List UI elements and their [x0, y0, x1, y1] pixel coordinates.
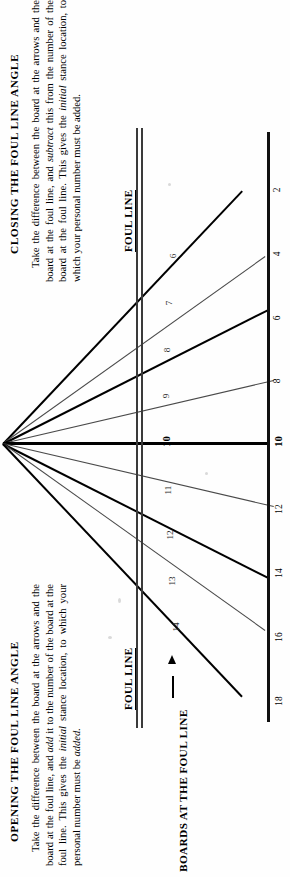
opening-body-emph-added: added. — [71, 728, 82, 757]
opening-body-emph-add: add — [44, 737, 55, 753]
boards-caption-leader — [172, 676, 174, 698]
board-axis-tick-12: 12 — [274, 504, 284, 513]
arrow-board-label-9: 9 — [161, 394, 171, 399]
board-axis-tick-18: 18 — [274, 696, 284, 705]
scan-speck — [108, 636, 112, 639]
board-axis-tick-8: 8 — [272, 379, 282, 384]
section-opening: OPENING THE FOUL LINE ANGLE Take the dif… — [8, 584, 128, 868]
opening-section-title: OPENING THE FOUL LINE ANGLE — [8, 641, 20, 842]
arrow-right-icon — [168, 655, 176, 664]
closing-body-emph-subtract: subtract — [44, 127, 55, 162]
board-axis-tick-2: 2 — [272, 188, 282, 193]
scan-speck — [118, 598, 121, 603]
ray-11-to-12 — [3, 443, 274, 507]
foul-line-rule-inner — [141, 128, 143, 728]
section-closing: CLOSING THE FOUL LINE ANGLE Take the dif… — [8, 0, 128, 284]
arrow-board-label-10: 10 — [161, 436, 172, 447]
board-axis-tick-6: 6 — [272, 316, 282, 321]
board-axis-tick-14: 14 — [274, 568, 284, 577]
arrow-board-label-6: 6 — [168, 254, 178, 259]
arrow-board-label-8: 8 — [162, 348, 172, 353]
boards-axis-caption: BOARDS AT THE FOUL LINE — [177, 709, 189, 872]
ray-7-to-4 — [3, 256, 266, 444]
foul-line-label-bottom: FOUL LINE — [122, 648, 136, 710]
closing-section-body: Take the difference between the board at… — [29, 0, 83, 282]
boards-axis-line — [267, 132, 270, 722]
arrow-board-label-14: 14 — [171, 622, 181, 631]
opening-section-body: Take the difference between the board at… — [29, 584, 83, 866]
board-axis-tick-10: 10 — [273, 436, 284, 447]
arrow-board-label-13: 13 — [167, 576, 177, 585]
scan-speck — [168, 183, 171, 186]
page-canvas: CLOSING THE FOUL LINE ANGLE Take the dif… — [0, 0, 290, 877]
arrow-board-label-7: 7 — [164, 301, 174, 306]
foul-line-label-top: FOUL LINE — [122, 190, 136, 252]
arrow-board-label-12: 12 — [165, 530, 175, 539]
foul-line-rule-outer — [136, 128, 138, 728]
closing-body-emph-initial: initial — [57, 85, 68, 110]
ray-9-to-8 — [3, 380, 274, 444]
board-axis-tick-4: 4 — [272, 252, 282, 257]
board-axis-tick-16: 16 — [274, 632, 284, 641]
arrow-board-label-11: 11 — [163, 486, 173, 495]
closing-section-title: CLOSING THE FOUL LINE ANGLE — [8, 54, 20, 254]
opening-body-emph-initial: initial — [57, 726, 68, 751]
scan-speck — [205, 472, 208, 475]
